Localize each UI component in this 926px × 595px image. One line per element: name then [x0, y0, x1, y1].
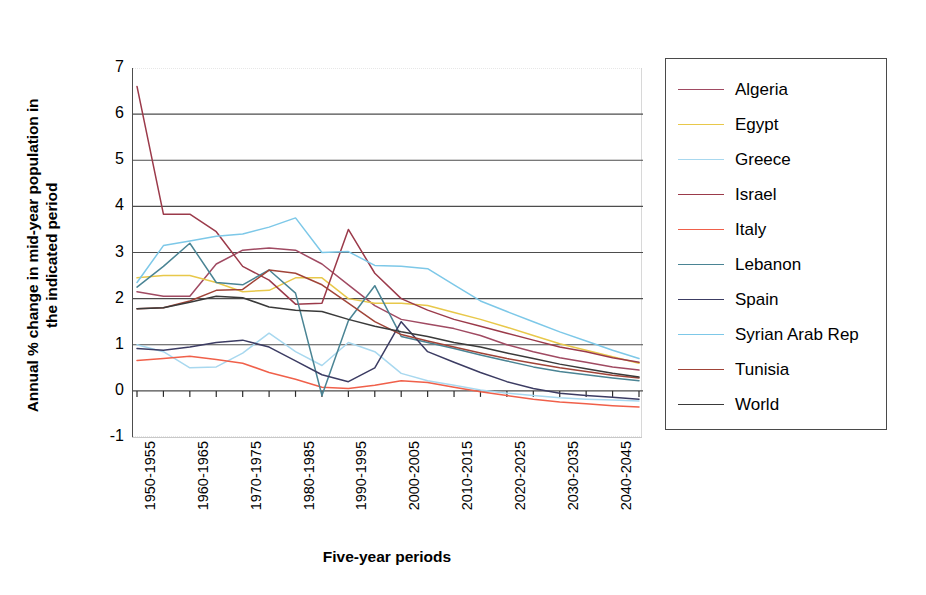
legend-item-lebanon[interactable]: Lebanon [666, 247, 886, 282]
x-tick-label: 2010-2015 [459, 441, 475, 551]
legend-color-swatch [678, 194, 724, 195]
legend-label: Italy [735, 220, 766, 240]
y-axis-title-line2: the indicated period [42, 45, 61, 465]
legend-color-swatch [678, 334, 724, 335]
legend-item-algeria[interactable]: Algeria [666, 72, 886, 107]
legend-label: Lebanon [735, 255, 801, 275]
y-axis-title-line1: Annual % change in mid-year population i… [23, 45, 42, 465]
legend-color-swatch [678, 89, 724, 90]
legend-item-egypt[interactable]: Egypt [666, 107, 886, 142]
legend-label: Israel [735, 185, 777, 205]
y-axis-ticks: 76543210-1 [94, 68, 124, 437]
legend-color-swatch [678, 404, 724, 405]
legend-item-syrian-arab-rep[interactable]: Syrian Arab Rep [666, 317, 886, 352]
y-tick-label: 5 [96, 150, 124, 168]
legend-label: Syrian Arab Rep [735, 325, 859, 345]
legend-item-tunisia[interactable]: Tunisia [666, 352, 886, 387]
legend-color-swatch [678, 264, 724, 265]
x-tick-label: 2040-2045 [618, 441, 634, 551]
chart-figure: Annual % change in mid-year population i… [0, 0, 926, 595]
y-axis-title: Annual % change in mid-year population i… [23, 45, 62, 465]
x-tick-label: 1990-1995 [353, 441, 369, 551]
x-tick-label: 1950-1955 [142, 441, 158, 551]
x-tick-label: 2030-2035 [565, 441, 581, 551]
legend-label: Tunisia [735, 360, 789, 380]
series-line-italy [137, 356, 639, 407]
chart-legend: AlgeriaEgyptGreeceIsraelItalyLebanonSpai… [665, 58, 887, 430]
series-line-egypt [137, 276, 639, 364]
x-tick-label: 1970-1975 [248, 441, 264, 551]
y-tick-label: 2 [96, 289, 124, 307]
x-tick-label: 2020-2025 [512, 441, 528, 551]
legend-label: Greece [735, 150, 791, 170]
plot-area [132, 68, 642, 437]
legend-color-swatch [678, 159, 724, 160]
legend-color-swatch [678, 229, 724, 230]
y-tick-label: 7 [96, 58, 124, 76]
x-axis-title: Five-year periods [132, 548, 642, 566]
legend-item-israel[interactable]: Israel [666, 177, 886, 212]
legend-color-swatch [678, 124, 724, 125]
y-tick-label: 0 [96, 381, 124, 399]
x-axis-ticks: 1950-19551960-19651970-19751980-19851990… [132, 441, 642, 541]
series-canvas [133, 68, 643, 437]
x-tick-label: 1960-1965 [195, 441, 211, 551]
series-line-israel [137, 86, 639, 362]
legend-label: Spain [735, 290, 778, 310]
legend-label: World [735, 395, 779, 415]
legend-item-greece[interactable]: Greece [666, 142, 886, 177]
x-tick-label: 1980-1985 [301, 441, 317, 551]
y-tick-label: 3 [96, 243, 124, 261]
y-tick-label: 6 [96, 104, 124, 122]
y-tick-label: 4 [96, 196, 124, 214]
series-line-world [137, 296, 639, 377]
legend-item-world[interactable]: World [666, 387, 886, 422]
series-line-syrian-arab-rep [137, 218, 639, 359]
y-tick-label: 1 [96, 335, 124, 353]
x-tick-label: 2000-2005 [406, 441, 422, 551]
legend-label: Egypt [735, 115, 778, 135]
y-tick-label: -1 [96, 427, 124, 445]
legend-item-spain[interactable]: Spain [666, 282, 886, 317]
plot-bottom-border [132, 437, 642, 438]
legend-item-italy[interactable]: Italy [666, 212, 886, 247]
legend-color-swatch [678, 369, 724, 370]
legend-color-swatch [678, 299, 724, 300]
legend-label: Algeria [735, 80, 788, 100]
